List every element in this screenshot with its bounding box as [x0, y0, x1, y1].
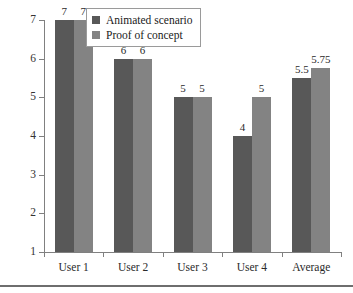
x-axis-tick [163, 252, 164, 257]
bar-value-label: 5 [244, 83, 279, 94]
y-axis-tick-label: 4 [16, 130, 36, 142]
y-axis-tick-label: 2 [16, 207, 36, 219]
legend-entry: Animated scenario [92, 12, 193, 27]
legend-label: Animated scenario [106, 14, 193, 26]
legend-entry: Proof of concept [92, 27, 193, 42]
bar-value-label: 4 [225, 122, 260, 133]
x-axis-category-label: User 4 [222, 261, 281, 274]
x-axis-tick [44, 252, 45, 257]
chart-legend: Animated scenario Proof of concept [86, 8, 201, 47]
x-axis-line [44, 252, 341, 253]
x-axis-category-label: User 1 [44, 261, 103, 274]
bar [311, 68, 330, 252]
x-axis-category-label: User 3 [163, 261, 222, 274]
y-axis-tick-label: 3 [16, 169, 36, 181]
y-axis-tick-label: 1 [16, 246, 36, 258]
bottom-rule [0, 285, 353, 287]
bar [174, 97, 193, 252]
x-axis-tick [103, 252, 104, 257]
bar [292, 78, 311, 252]
legend-swatch-icon [92, 31, 100, 39]
y-axis-tick-label: 5 [16, 91, 36, 103]
bar-value-label: 5 [185, 83, 220, 94]
x-axis-tick [282, 252, 283, 257]
bar-value-label: 5.5 [284, 64, 319, 75]
bar [74, 20, 93, 252]
y-axis-tick-label: 6 [16, 53, 36, 65]
legend-label: Proof of concept [106, 29, 183, 41]
bar [252, 97, 271, 252]
bar [193, 97, 212, 252]
bar-value-label: 6 [125, 45, 160, 56]
plot-area [44, 20, 341, 252]
bar-value-label: 5.75 [303, 54, 338, 65]
x-axis-tick [222, 252, 223, 257]
x-axis-category-label: User 2 [103, 261, 162, 274]
grouped-bar-chart: 1234567 User 1User 2User 3User 4Average … [0, 0, 353, 293]
bar-value-label: 7 [66, 6, 101, 17]
y-axis-tick-label: 7 [16, 14, 36, 26]
bar [114, 59, 133, 252]
bar [133, 59, 152, 252]
x-axis-category-label: Average [282, 261, 341, 274]
bar [233, 136, 252, 252]
x-axis-tick [341, 252, 342, 257]
bar [55, 20, 74, 252]
